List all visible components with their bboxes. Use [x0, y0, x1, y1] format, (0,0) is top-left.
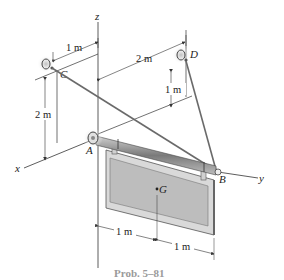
cable-cb — [52, 68, 218, 172]
dim-c-height: 2 m — [34, 80, 56, 160]
dim-label-z-to-d: 2 m — [136, 53, 152, 64]
x-axis-label: x — [14, 162, 20, 174]
dim-label-g-to-edge: 1 m — [174, 241, 190, 252]
dim-c-to-z: 1 m — [53, 38, 98, 62]
dim-label-d-height: 1 m — [165, 84, 181, 95]
diagram: z x y 1 m 2 m 2 m 1 m — [0, 0, 284, 280]
support-a: A — [83, 128, 103, 156]
point-d-label: D — [189, 48, 198, 60]
dim-label-a-to-g: 1 m — [116, 226, 132, 237]
dim-label-c-to-z: 1 m — [66, 42, 82, 53]
joint-b: B — [215, 169, 226, 185]
dim-label-c-height: 2 m — [35, 109, 51, 120]
point-a-label: A — [85, 144, 93, 156]
cable-db — [186, 61, 216, 170]
x-axis: x — [14, 140, 92, 174]
dim-d-height: 1 m — [164, 72, 186, 107]
z-axis-label: z — [94, 10, 100, 22]
point-b-label: B — [219, 173, 226, 185]
point-g-label: G — [159, 183, 167, 195]
cables — [52, 61, 218, 172]
figure-caption: Prob. 5–81 — [114, 267, 165, 279]
y-axis-label: y — [258, 172, 264, 184]
support-d: D — [172, 46, 198, 64]
center-of-gravity-dot — [156, 188, 159, 191]
